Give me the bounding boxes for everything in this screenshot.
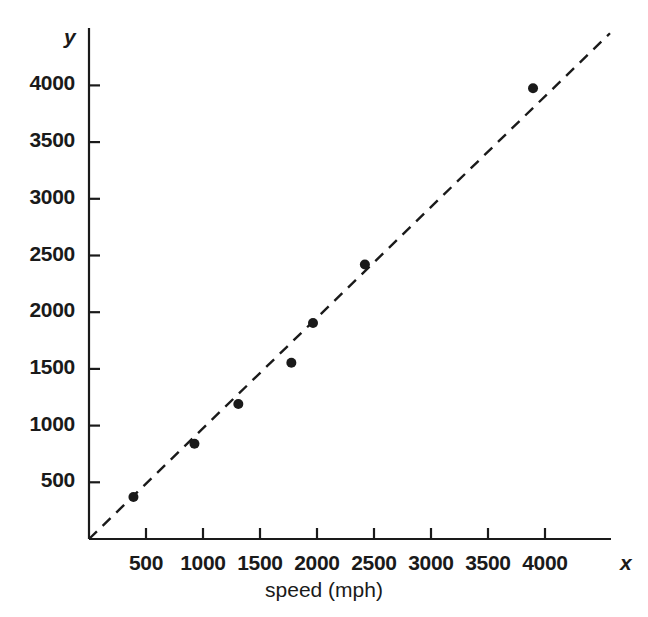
x-axis-symbol: x	[620, 551, 632, 575]
x-axis-caption: speed (mph)	[0, 578, 648, 602]
data-point	[233, 399, 243, 409]
scatter-chart: 5001000150020002500300035004000 50010001…	[0, 0, 648, 617]
y-tick-label: 1500	[29, 355, 75, 379]
data-points	[128, 83, 538, 502]
trendline-path	[89, 33, 610, 539]
x-tick-label: 4000	[505, 551, 585, 575]
plot-canvas	[0, 0, 648, 617]
y-tick-label: 500	[41, 468, 75, 492]
y-tick-label: 2000	[29, 298, 75, 322]
data-point	[189, 439, 199, 449]
y-tick-label: 1000	[29, 412, 75, 436]
axis-lines	[89, 28, 611, 539]
data-point	[308, 318, 318, 328]
y-tick-label: 3000	[29, 185, 75, 209]
data-point	[128, 492, 138, 502]
y-tick-label: 4000	[29, 71, 75, 95]
trendline	[89, 33, 610, 539]
y-tick-label: 3500	[29, 128, 75, 152]
data-point	[286, 358, 296, 368]
data-point	[360, 260, 370, 270]
data-point	[528, 83, 538, 93]
y-axis-symbol: y	[64, 25, 76, 49]
y-tick-label: 2500	[29, 242, 75, 266]
